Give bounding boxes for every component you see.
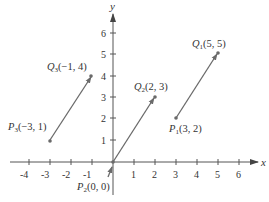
- label-q3: Q3(−1, 4): [47, 61, 87, 74]
- svg-text:5: 5: [101, 49, 106, 60]
- svg-text:5: 5: [215, 169, 220, 180]
- svg-text:-2: -2: [62, 169, 70, 180]
- svg-text:-1: -1: [83, 169, 91, 180]
- point-p2: [111, 160, 115, 164]
- point-q3: [89, 74, 93, 78]
- svg-text:-4: -4: [20, 169, 28, 180]
- label-p2: P2(0, 0): [76, 181, 110, 194]
- svg-text:4: 4: [194, 169, 199, 180]
- coordinate-plane: x y -4 -3 -2 -1 1 2 3 4 5 6 1 2: [0, 0, 269, 202]
- label-q1: Q1(5, 5): [192, 38, 226, 51]
- label-p1: P1(3, 2): [168, 123, 202, 136]
- x-axis-label: x: [260, 156, 266, 168]
- point-p1: [174, 116, 178, 120]
- svg-text:3: 3: [101, 92, 106, 103]
- label-p3: P3(−3, 1): [7, 121, 47, 134]
- svg-text:1: 1: [131, 169, 136, 180]
- svg-text:4: 4: [101, 71, 106, 82]
- svg-text:6: 6: [236, 169, 241, 180]
- y-tick-labels: 1 2 3 4 5 6: [101, 28, 106, 146]
- point-q2: [153, 95, 157, 99]
- svg-text:2: 2: [101, 113, 106, 124]
- x-tick-labels: -4 -3 -2 -1 1 2 3 4 5 6: [20, 169, 241, 180]
- point-q1: [216, 51, 220, 55]
- svg-text:3: 3: [173, 169, 178, 180]
- svg-text:6: 6: [101, 28, 106, 39]
- svg-text:1: 1: [101, 135, 106, 146]
- vector-p3q3: Q3(−1, 4) P3(−3, 1): [7, 61, 93, 143]
- y-axis-label: y: [109, 0, 115, 12]
- point-p3: [48, 139, 52, 143]
- label-q2: Q2(2, 3): [134, 81, 168, 94]
- p2-pointer: [108, 167, 112, 177]
- vector-p1q1: Q1(5, 5) P1(3, 2): [168, 38, 226, 136]
- svg-text:2: 2: [152, 169, 157, 180]
- svg-text:-3: -3: [41, 169, 49, 180]
